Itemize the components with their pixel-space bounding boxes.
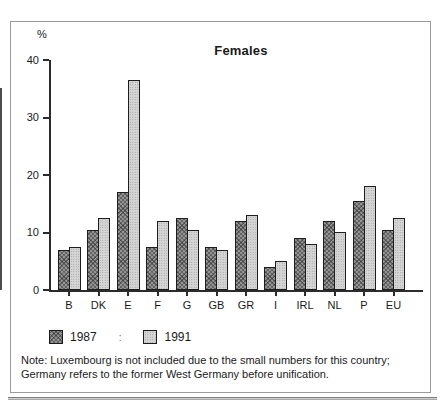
x-tick-G xyxy=(186,292,188,296)
x-tick-IRL xyxy=(304,292,306,296)
legend-label-1991: 1991 xyxy=(164,330,191,344)
footnote: Note: Luxembourg is not included due to … xyxy=(21,353,421,381)
footnote-line-1: Note: Luxembourg is not included due to … xyxy=(21,353,421,367)
bar-group-GB xyxy=(205,60,228,290)
page-edge-artifact xyxy=(0,88,2,290)
x-tick-label-NL: NL xyxy=(327,299,341,311)
x-tick-F xyxy=(157,292,159,296)
x-tick-GR xyxy=(245,292,247,296)
bar-1991-I xyxy=(275,261,287,290)
y-tick-0 xyxy=(43,289,49,291)
x-tick-B xyxy=(68,292,70,296)
bar-1991-EU xyxy=(393,218,405,290)
bar-1991-F xyxy=(157,221,169,290)
x-tick-I xyxy=(275,292,277,296)
bar-1991-DK xyxy=(98,218,110,290)
legend-separator: : xyxy=(119,332,122,343)
figure-root: % Females 010203040BDKEFGGBGRIIRLNLPEU 1… xyxy=(0,0,446,404)
y-tick-label-20: 20 xyxy=(17,170,39,181)
bar-group-P xyxy=(353,60,376,290)
x-tick-E xyxy=(127,292,129,296)
x-tick-label-DK: DK xyxy=(91,299,106,311)
y-tick-10 xyxy=(43,232,49,234)
x-tick-label-EU: EU xyxy=(386,299,401,311)
y-tick-label-30: 30 xyxy=(17,112,39,123)
bar-1991-GR xyxy=(246,215,258,290)
footnote-line-2: Germany refers to the former West German… xyxy=(21,367,421,381)
legend-label-1987: 1987 xyxy=(70,330,97,344)
bar-group-DK xyxy=(87,60,110,290)
bar-1991-E xyxy=(128,80,140,290)
y-tick-label-0: 0 xyxy=(17,285,39,296)
bar-group-IRL xyxy=(294,60,317,290)
bar-1991-GB xyxy=(216,250,228,290)
bar-group-NL xyxy=(323,60,346,290)
bar-group-I xyxy=(264,60,287,290)
x-tick-EU xyxy=(393,292,395,296)
bar-group-E xyxy=(117,60,140,290)
bar-1991-IRL xyxy=(305,244,317,290)
chart-title: Females xyxy=(181,43,301,58)
plot-area: 010203040BDKEFGGBGRIIRLNLPEU xyxy=(49,60,423,292)
legend: 1987 : 1991 xyxy=(49,330,191,344)
x-tick-label-G: G xyxy=(183,299,192,311)
bar-1991-G xyxy=(187,230,199,290)
x-tick-DK xyxy=(98,292,100,296)
x-tick-label-GR: GR xyxy=(238,299,255,311)
y-tick-30 xyxy=(43,117,49,119)
legend-swatch-1987 xyxy=(49,330,63,344)
bar-group-G xyxy=(176,60,199,290)
bar-1991-B xyxy=(69,247,81,290)
x-tick-label-IRL: IRL xyxy=(296,299,313,311)
y-tick-20 xyxy=(43,174,49,176)
legend-swatch-1991 xyxy=(143,330,157,344)
bar-1991-P xyxy=(364,186,376,290)
y-axis-unit-label: % xyxy=(37,28,47,40)
y-tick-label-10: 10 xyxy=(17,227,39,238)
x-tick-label-GB: GB xyxy=(209,299,225,311)
x-tick-label-P: P xyxy=(360,299,367,311)
x-tick-label-B: B xyxy=(65,299,72,311)
bottom-rule xyxy=(8,397,437,400)
x-tick-P xyxy=(363,292,365,296)
y-tick-40 xyxy=(43,59,49,61)
bar-group-F xyxy=(146,60,169,290)
bar-group-B xyxy=(58,60,81,290)
bar-group-GR xyxy=(235,60,258,290)
y-tick-label-40: 40 xyxy=(17,55,39,66)
x-tick-label-F: F xyxy=(154,299,161,311)
bar-group-EU xyxy=(382,60,405,290)
figure-frame: % Females 010203040BDKEFGGBGRIIRLNLPEU 1… xyxy=(10,21,431,393)
x-tick-GB xyxy=(216,292,218,296)
bar-1991-NL xyxy=(334,232,346,290)
x-tick-label-E: E xyxy=(124,299,131,311)
x-tick-label-I: I xyxy=(274,299,277,311)
x-tick-NL xyxy=(334,292,336,296)
